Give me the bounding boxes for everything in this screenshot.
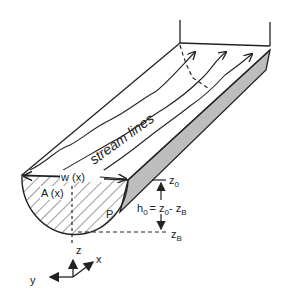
channel-diagram: stream lines w (x) A (x) P z0 zB h0= z0-…: [0, 0, 290, 306]
coordinate-axes: z x y: [30, 244, 102, 286]
z0-label: z0: [169, 174, 180, 189]
h0-label: h0= z0- zB: [137, 202, 187, 217]
channel-far-rim: [180, 43, 270, 46]
axis-y-label: y: [30, 274, 36, 286]
axis-z-label: z: [76, 244, 82, 256]
cross-section-area: [22, 175, 128, 235]
stream-line-2: [60, 52, 226, 172]
zB-label: zB: [171, 228, 182, 243]
width-label: w (x): [60, 171, 85, 183]
perimeter-label: P: [106, 208, 113, 220]
area-label: A (x): [41, 187, 64, 199]
axis-x-label: x: [96, 253, 102, 265]
